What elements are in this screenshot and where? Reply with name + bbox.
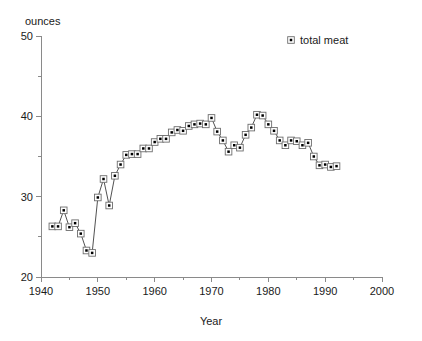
data-point-dot	[307, 142, 310, 145]
data-point-dot	[199, 122, 202, 125]
data-point-dot	[250, 126, 253, 129]
series-layer	[49, 111, 340, 256]
data-point-dot	[97, 196, 100, 199]
line-chart-canvas: ounces Year 20304050 1940195019601970198…	[0, 0, 422, 341]
data-point-dot	[261, 114, 264, 117]
series-polyline	[52, 115, 336, 253]
data-point-dot	[74, 222, 77, 225]
data-point-dot	[301, 144, 304, 147]
y-axis-title: ounces	[25, 15, 61, 27]
data-point-dot	[239, 146, 242, 149]
x-tick-label: 1990	[313, 285, 337, 297]
data-point-dot	[91, 252, 94, 255]
data-point-dot	[153, 141, 156, 144]
x-axis-title: Year	[200, 315, 223, 327]
data-point-dot	[193, 123, 196, 126]
data-point-dot	[205, 123, 208, 126]
data-point-dot	[210, 117, 213, 120]
chart-figure: ounces Year 20304050 1940195019601970198…	[0, 0, 422, 341]
x-tick-label: 1950	[86, 285, 110, 297]
data-point-dot	[335, 165, 338, 168]
data-point-dot	[108, 204, 111, 207]
data-point-dot	[148, 147, 151, 150]
data-point-dot	[62, 209, 65, 212]
legend-marker-dot	[290, 39, 293, 42]
data-point-dot	[290, 139, 293, 142]
x-tick-label: 1980	[256, 285, 280, 297]
data-point-dot	[330, 166, 333, 169]
data-point-dot	[159, 138, 162, 141]
data-point-dot	[284, 144, 287, 147]
data-point-dot	[136, 153, 139, 156]
data-point-dot	[119, 163, 122, 166]
data-point-dot	[51, 225, 54, 228]
data-point-dot	[102, 178, 105, 181]
data-point-dot	[267, 123, 270, 126]
y-tick-label: 50	[21, 30, 33, 42]
x-tick-label: 1940	[29, 285, 53, 297]
data-point-dot	[125, 154, 128, 157]
data-point-dot	[244, 134, 247, 137]
data-point-dot	[222, 139, 225, 142]
data-point-dot	[318, 164, 321, 167]
x-tick-label: 1970	[199, 285, 223, 297]
data-point-dot	[165, 138, 168, 141]
data-point-dot	[296, 140, 299, 143]
data-point-dot	[273, 130, 276, 133]
data-point-dot	[57, 225, 60, 228]
data-point-dot	[85, 249, 88, 252]
data-point-dot	[142, 147, 145, 150]
x-axis-ticks: 1940195019601970198019902000	[29, 277, 394, 297]
data-point-dot	[114, 175, 117, 178]
data-point-dot	[233, 144, 236, 147]
x-tick-label: 1960	[142, 285, 166, 297]
y-tick-label: 20	[21, 271, 33, 283]
data-point-dot	[80, 232, 83, 235]
y-axis-ticks: 20304050	[21, 30, 41, 283]
data-point-dot	[131, 153, 134, 156]
data-point-dot	[313, 155, 316, 158]
data-point-dot	[216, 130, 219, 133]
data-point-dot	[256, 113, 259, 116]
data-point-dot	[68, 226, 71, 229]
y-tick-label: 30	[21, 191, 33, 203]
data-point-dot	[227, 150, 230, 153]
x-tick-label: 2000	[370, 285, 394, 297]
legend-label: total meat	[300, 34, 348, 46]
data-point-dot	[176, 129, 179, 132]
y-tick-label: 40	[21, 110, 33, 122]
data-point-dot	[324, 163, 327, 166]
chart-legend: total meat	[288, 34, 349, 46]
data-point-dot	[188, 125, 191, 128]
data-point-dot	[170, 131, 173, 134]
data-point-dot	[278, 139, 281, 142]
data-point-dot	[182, 130, 185, 133]
